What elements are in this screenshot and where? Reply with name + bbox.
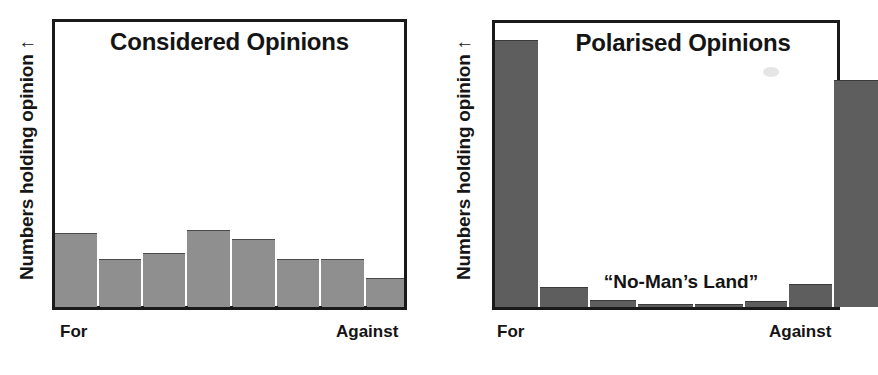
bar-polarised-5: [695, 304, 743, 307]
y-axis-label-left: Numbers holding opinion ↑: [10, 10, 44, 310]
bar-considered-1: [55, 233, 97, 307]
bar-polarised-4: [638, 304, 693, 307]
bar-considered-7: [321, 259, 364, 307]
bar-series-considered-opinions: [55, 22, 404, 307]
bar-considered-5: [232, 239, 275, 307]
axis-tick: [185, 306, 188, 310]
bar-considered-8: [366, 278, 404, 307]
plot-area-considered-opinions: Considered Opinions: [52, 19, 407, 310]
bar-polarised-8: [834, 80, 878, 307]
axis-tick: [230, 306, 233, 310]
bar-polarised-6: [745, 301, 787, 307]
bar-considered-6: [277, 259, 319, 307]
axis-tick: [97, 306, 100, 310]
axis-tick: [275, 306, 278, 310]
bar-series-polarised-opinions: [495, 23, 837, 307]
chart-panel-polarised-opinions: Numbers holding opinion ↑ Polarised Opin…: [435, 0, 869, 375]
bar-considered-3: [143, 253, 185, 307]
plot-area-polarised-opinions: Polarised Opinions “No-Man’s Land”: [492, 20, 840, 310]
chart-title-polarised-opinions: Polarised Opinions: [495, 29, 837, 57]
x-axis-label-for-right: For: [497, 322, 524, 342]
bar-considered-2: [99, 259, 141, 307]
x-axis-label-for-left: For: [60, 322, 87, 342]
bar-polarised-1: [495, 40, 538, 307]
axis-tick: [364, 306, 367, 310]
x-axis-label-against-right: Against: [769, 322, 831, 342]
x-axis-label-against-left: Against: [336, 322, 398, 342]
annotation-no-mans-land: “No-Man’s Land”: [495, 271, 837, 293]
axis-tick: [141, 306, 144, 310]
axis-tick: [319, 306, 322, 310]
chart-panel-considered-opinions: Numbers holding opinion ↑ Considered Opi…: [0, 0, 435, 375]
bar-considered-4: [187, 230, 230, 307]
chart-title-considered-opinions: Considered Opinions: [55, 28, 404, 56]
y-axis-label-right: Numbers holding opinion ↑: [447, 10, 481, 310]
bar-polarised-3: [590, 300, 636, 307]
